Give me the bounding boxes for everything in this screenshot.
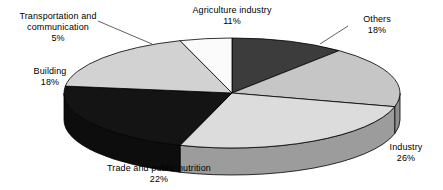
slice-label-percent: 5% (6, 33, 110, 44)
others-leader (320, 26, 348, 44)
slice-label-name: Industry (375, 142, 437, 153)
slice-label-others: Others 18% (350, 14, 404, 36)
slice-label-name: Agriculture industry (174, 5, 290, 16)
slice-label-industry: Industry 26% (375, 142, 437, 164)
slice-label-percent: 22% (84, 174, 234, 185)
slice-label-name-line2: communication (6, 22, 110, 33)
slice-label-building: Building 18% (22, 66, 78, 88)
slice-label-percent: 26% (375, 153, 437, 164)
slice-label-name-line1: Transportation and (6, 11, 110, 22)
pie-chart: Agriculture industry 11% Others 18% Indu… (0, 0, 443, 190)
slice-label-percent: 18% (350, 25, 404, 36)
slice-label-percent: 18% (22, 77, 78, 88)
slice-label-percent: 11% (174, 16, 290, 27)
slice-label-agriculture-industry: Agriculture industry 11% (174, 5, 290, 27)
slice-label-trade-and-public-nutrition: Trade and public nutrition 22% (84, 163, 234, 185)
slice-label-name: Trade and public nutrition (84, 163, 234, 174)
slice-label-name: Building (22, 66, 78, 77)
slice-label-transportation-and-communication: Transportation and communication 5% (6, 11, 110, 44)
slice-label-name: Others (350, 14, 404, 25)
pie-top-faces (64, 38, 400, 148)
